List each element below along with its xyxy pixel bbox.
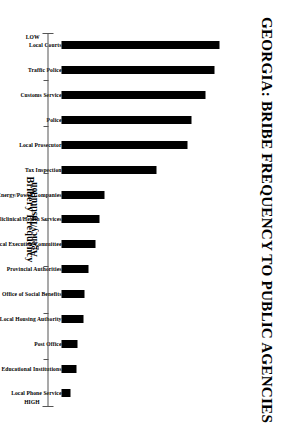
chart-title: GEORGIA: BRIBE FREQUENCY TO PUBLIC AGENC… <box>257 0 275 440</box>
bar-slot[interactable]: Office of Social Benefits <box>61 282 241 307</box>
axis-tick <box>43 313 48 314</box>
bar-series: Local CourtsTraffic PoliceCustoms Servic… <box>61 33 241 406</box>
bar[interactable] <box>61 215 99 223</box>
axis-tick <box>43 359 48 360</box>
bar-slot[interactable]: Local Courts <box>61 33 241 58</box>
bar-slot[interactable]: Customs Service <box>61 83 241 108</box>
bar[interactable] <box>61 340 77 348</box>
bar[interactable] <box>61 315 84 323</box>
value-axis-title: Bribery Frequency <box>24 33 35 406</box>
bar[interactable] <box>61 191 104 199</box>
axis-tick <box>43 126 48 127</box>
bar-slot[interactable]: Local Phone Service <box>61 381 241 406</box>
bar[interactable] <box>61 66 214 74</box>
bar[interactable] <box>61 141 187 149</box>
bar-slot[interactable]: Local Housing Authority <box>61 306 241 331</box>
bar[interactable] <box>61 365 76 373</box>
bar[interactable] <box>61 166 156 174</box>
value-axis: LOWHIGH <box>47 33 48 406</box>
axis-tick <box>43 266 48 267</box>
bar[interactable] <box>61 265 88 273</box>
bar-slot[interactable]: Local Executive Committee <box>61 232 241 257</box>
bar[interactable] <box>61 240 95 248</box>
axis-tick <box>43 80 48 81</box>
bar[interactable] <box>61 41 219 49</box>
chart-figure: GEORGIA: BRIBE FREQUENCY TO PUBLIC AGENC… <box>0 0 281 440</box>
bar-slot[interactable]: Post Office <box>61 331 241 356</box>
bar-slot[interactable]: Provincial Authorities <box>61 257 241 282</box>
bar-slot[interactable]: Traffic Police <box>61 58 241 83</box>
bar-slot[interactable]: Tax Inspection <box>61 157 241 182</box>
bar-slot[interactable]: Policlinical/Health Services <box>61 207 241 232</box>
bar-slot[interactable]: Local Prosecutor <box>61 132 241 157</box>
axis-end-cap <box>42 406 53 407</box>
plot-area: Local CourtsTraffic PoliceCustoms Servic… <box>61 33 241 406</box>
bar[interactable] <box>61 91 205 99</box>
bar-slot[interactable]: State Educational Institutions <box>61 356 241 381</box>
axis-tick <box>43 173 48 174</box>
axis-end-cap <box>42 33 53 34</box>
axis-tick <box>43 220 48 221</box>
bar[interactable] <box>61 290 84 298</box>
bar-slot[interactable]: Police <box>61 108 241 133</box>
bar[interactable] <box>61 116 191 124</box>
bar-slot[interactable]: Energy/Power Companies <box>61 182 241 207</box>
bar[interactable] <box>61 389 70 397</box>
